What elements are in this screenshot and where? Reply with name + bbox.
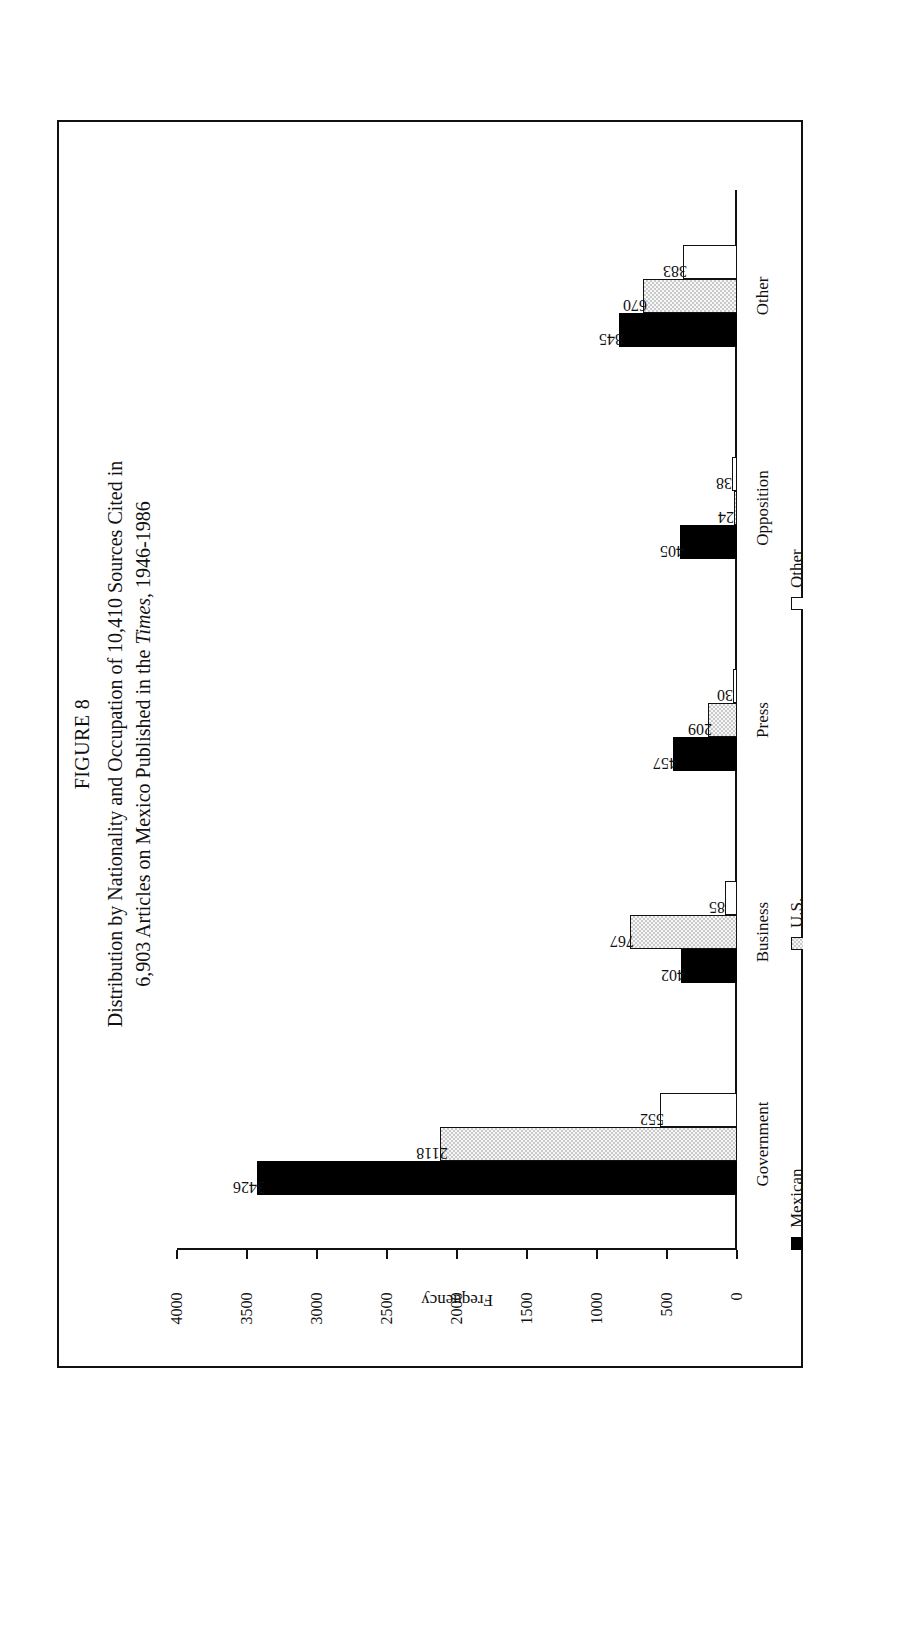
figure-title-line-2: 6,903 Articles on Mexico Published in th… [130, 120, 158, 1368]
legend-item-mexican[interactable]: Mexican [787, 1169, 803, 1250]
bar-other-other[interactable]: 383 [683, 245, 737, 279]
rotated-canvas: FIGURE 8 Distribution by Nationality and… [57, 120, 803, 1368]
bar-us-other[interactable]: 670 [643, 279, 737, 313]
y-tick-mark [526, 1250, 528, 1259]
legend-label: U.S. [787, 898, 803, 928]
bar-other-business[interactable]: 85 [725, 881, 737, 915]
title-line2-suffix: , 1946-1986 [132, 501, 154, 598]
y-tick-mark [596, 1250, 598, 1259]
y-tick-label: 500 [658, 1292, 676, 1316]
bar-group: 34262118552Government [177, 1038, 737, 1250]
bar-value-label: 30 [717, 686, 733, 704]
y-tick-mark [736, 1250, 738, 1259]
y-tick-mark [386, 1250, 388, 1259]
y-tick-mark [246, 1250, 248, 1259]
bar-value-label: 209 [688, 720, 712, 738]
bar-value-label: 383 [663, 262, 687, 280]
bar-us-business[interactable]: 767 [630, 915, 737, 949]
bar-group: 4052438Opposition [177, 402, 737, 614]
y-tick-mark [456, 1250, 458, 1259]
legend-item-other[interactable]: Other [787, 549, 803, 610]
bar-mexican-press[interactable]: 457 [673, 737, 737, 771]
legend-item-us[interactable]: U.S. [787, 898, 803, 950]
y-tick-mark [176, 1250, 178, 1259]
y-tick-label: 1500 [518, 1292, 536, 1324]
bar-other-government[interactable]: 552 [660, 1093, 737, 1127]
bar-value-label: 3426 [233, 1178, 265, 1196]
y-tick-label: 4000 [168, 1292, 186, 1324]
y-tick-mark [316, 1250, 318, 1259]
bar-value-label: 85 [709, 898, 725, 916]
bar-us-government[interactable]: 2118 [440, 1127, 737, 1161]
y-tick-label: 2500 [378, 1292, 396, 1324]
plot-area: 05001000150020002500300035004000 Frequen… [177, 190, 737, 1250]
category-label-opposition: Opposition [753, 470, 773, 546]
bar-value-label: 402 [661, 966, 685, 984]
bar-value-label: 670 [623, 296, 647, 314]
y-tick-label: 3500 [238, 1292, 256, 1324]
rotated-figure-container: FIGURE 8 Distribution by Nationality and… [57, 120, 803, 1368]
bar-value-label: 38 [716, 474, 732, 492]
gray-hatched-square-icon [791, 937, 804, 950]
figure-title-block: FIGURE 8 Distribution by Nationality and… [71, 120, 157, 1368]
bar-mexican-business[interactable]: 402 [681, 949, 737, 983]
bar-mexican-government[interactable]: 3426 [257, 1161, 737, 1195]
figure-page: FIGURE 8 Distribution by Nationality and… [0, 0, 904, 1634]
category-label-business: Business [753, 902, 773, 962]
bar-value-label: 552 [640, 1110, 664, 1128]
legend-label: Mexican [787, 1169, 803, 1228]
bar-value-label: 767 [610, 932, 634, 950]
legend-label: Other [787, 549, 803, 588]
bar-groups: 34262118552Government40276785Business457… [177, 190, 737, 1250]
category-label-other: Other [753, 277, 773, 316]
figure-title-line-1: Distribution by Nationality and Occupati… [102, 120, 130, 1368]
y-axis-title: Frequency [421, 1290, 493, 1310]
bar-value-label: 405 [660, 542, 684, 560]
black-square-icon [791, 1237, 804, 1250]
y-tick-label: 1000 [588, 1292, 606, 1324]
y-tick-mark [666, 1250, 668, 1259]
bar-mexican-opposition[interactable]: 405 [680, 525, 737, 559]
bar-group: 40276785Business [177, 826, 737, 1038]
category-label-press: Press [753, 702, 773, 738]
bar-group: 845670383Other [177, 190, 737, 402]
bar-group: 45720930Press [177, 614, 737, 826]
category-label-government: Government [753, 1102, 773, 1187]
title-line2-italic: Times [132, 598, 154, 645]
y-tick-label: 0 [728, 1292, 746, 1300]
bar-value-label: 24 [718, 508, 734, 526]
bar-other-press[interactable]: 30 [733, 669, 737, 703]
y-tick-label: 3000 [308, 1292, 326, 1324]
title-line2-prefix: 6,903 Articles on Mexico Published in th… [132, 645, 154, 987]
bar-mexican-other[interactable]: 845 [619, 313, 737, 347]
figure-number: FIGURE 8 [71, 120, 94, 1368]
bar-value-label: 2118 [417, 1144, 448, 1162]
white-outline-square-icon [791, 597, 804, 610]
bar-us-opposition[interactable]: 24 [734, 491, 737, 525]
bar-value-label: 845 [599, 330, 623, 348]
bar-other-opposition[interactable]: 38 [732, 457, 737, 491]
bar-us-press[interactable]: 209 [708, 703, 737, 737]
bar-value-label: 457 [653, 754, 677, 772]
